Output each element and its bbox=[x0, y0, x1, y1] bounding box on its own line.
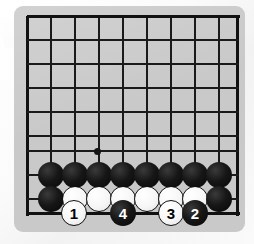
black-stone-r1-c6[interactable] bbox=[158, 162, 184, 188]
black-stone-r1-c1[interactable] bbox=[38, 162, 64, 188]
black-stone-r2-c8[interactable] bbox=[206, 186, 232, 212]
white-stone-r2-c3[interactable] bbox=[86, 186, 112, 212]
move-stone-4[interactable]: 4 bbox=[110, 200, 136, 226]
move-stone-3-label: 3 bbox=[167, 206, 175, 221]
white-stone-r2-c5[interactable] bbox=[134, 186, 160, 212]
go-diagram-screenshot: 1432 bbox=[0, 0, 254, 244]
stone-layer: 1432 bbox=[0, 0, 254, 244]
move-stone-1-label: 1 bbox=[70, 206, 78, 221]
black-stone-r1-c4[interactable] bbox=[110, 162, 136, 188]
black-stone-r1-c5[interactable] bbox=[134, 162, 160, 188]
move-stone-2[interactable]: 2 bbox=[182, 200, 208, 226]
black-stone-r1-c3[interactable] bbox=[86, 162, 112, 188]
move-stone-3[interactable]: 3 bbox=[158, 200, 184, 226]
move-stone-2-label: 2 bbox=[191, 206, 199, 221]
black-stone-r2-c1[interactable] bbox=[38, 186, 64, 212]
move-stone-4-label: 4 bbox=[119, 206, 127, 221]
black-stone-r1-c7[interactable] bbox=[182, 162, 208, 188]
black-stone-r1-c2[interactable] bbox=[62, 162, 88, 188]
move-stone-1[interactable]: 1 bbox=[61, 200, 87, 226]
black-stone-r1-c8[interactable] bbox=[206, 162, 232, 188]
